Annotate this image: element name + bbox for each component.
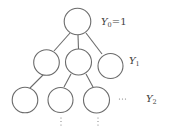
edge-l1b-to-l2c xyxy=(86,74,93,87)
vertical-ellipsis-1 xyxy=(60,117,61,125)
edge-l1a-to-l2a xyxy=(30,75,43,88)
tree-node-root xyxy=(64,8,91,35)
edge-l1b-to-l2b xyxy=(64,74,71,87)
level-label-y1: Y1 xyxy=(129,55,140,68)
level-label-y2: Y2 xyxy=(146,93,157,106)
tree-node-l1-2 xyxy=(66,49,92,75)
horizontal-ellipsis xyxy=(119,98,126,99)
tree-node-l1-1 xyxy=(34,50,60,76)
branching-tree-diagram: Y0=1 Y1 Y2 xyxy=(0,0,169,131)
tree-node-l2-2 xyxy=(48,88,73,113)
edge-root-to-l1-c xyxy=(86,33,102,54)
vertical-ellipsis-2 xyxy=(97,117,98,125)
tree-node-l1-3 xyxy=(98,54,123,79)
edge-root-to-l1-a xyxy=(54,33,70,51)
tree-node-l2-3 xyxy=(84,87,110,113)
edge-root-to-l1-b xyxy=(78,35,79,49)
tree-node-l2-1 xyxy=(12,87,38,113)
level-label-y0: Y0=1 xyxy=(101,16,127,29)
